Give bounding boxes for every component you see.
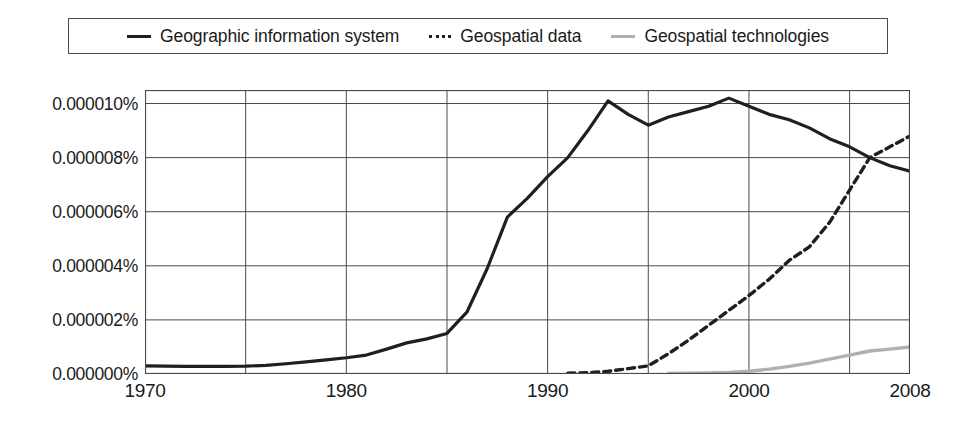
ngram-chart: Geographic information system Geospatial… <box>0 0 956 435</box>
legend-label-0: Geographic information system <box>160 26 399 47</box>
legend-label-2: Geospatial technologies <box>644 26 829 47</box>
legend-item-2[interactable]: Geospatial technologies <box>611 26 829 47</box>
series-line-0 <box>145 98 910 366</box>
solid-dark-line-icon <box>127 35 151 38</box>
plot-border <box>146 91 910 374</box>
y-tick-label: 0.000000% <box>3 364 138 385</box>
data-series <box>145 98 910 373</box>
y-tick-label: 0.000004% <box>3 255 138 276</box>
x-tick-label: 2008 <box>889 380 930 402</box>
y-tick-label: 0.000006% <box>3 201 138 222</box>
legend-label-1: Geospatial data <box>460 26 581 47</box>
x-tick-label: 2000 <box>728 380 769 402</box>
x-axis-tick-labels: 19701980199020002008 <box>145 380 910 410</box>
y-tick-label: 0.000010% <box>3 93 138 114</box>
y-tick-label: 0.000008% <box>3 147 138 168</box>
x-tick-label: 1980 <box>326 380 367 402</box>
x-tick-label: 1970 <box>124 380 165 402</box>
series-line-1 <box>568 136 910 373</box>
y-axis-tick-labels: 0.000010%0.000008%0.000006%0.000004%0.00… <box>0 90 138 374</box>
solid-gray-line-icon <box>611 35 635 38</box>
series-line-2 <box>668 347 910 374</box>
dashed-line-icon <box>429 35 451 38</box>
gridlines <box>145 90 910 374</box>
y-tick-label: 0.000002% <box>3 309 138 330</box>
legend-item-1[interactable]: Geospatial data <box>429 26 581 47</box>
x-tick-label: 1990 <box>527 380 568 402</box>
chart-legend: Geographic information system Geospatial… <box>68 18 888 54</box>
legend-item-0[interactable]: Geographic information system <box>127 26 399 47</box>
plot-area <box>145 90 910 374</box>
